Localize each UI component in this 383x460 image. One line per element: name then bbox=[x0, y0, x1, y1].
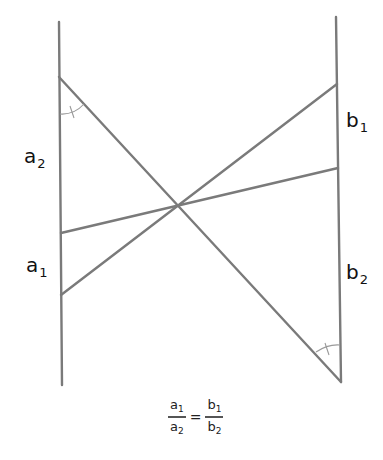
equals-sign: = bbox=[190, 409, 202, 425]
transversal-upper-line bbox=[61, 84, 337, 295]
label-b2-sub: 2 bbox=[360, 272, 368, 287]
label-a2-sub: 2 bbox=[37, 156, 45, 171]
right-fraction: b1 b2 bbox=[205, 398, 223, 436]
label-a2-base: a bbox=[24, 144, 36, 168]
left-den-base: a bbox=[170, 419, 178, 434]
right-numerator: b1 bbox=[205, 398, 223, 414]
right-den-base: b bbox=[207, 419, 215, 434]
right-vertical-line bbox=[336, 17, 341, 382]
right-denominator: b2 bbox=[205, 420, 223, 436]
angle-tick-bottom-right-icon bbox=[325, 343, 329, 355]
left-denominator: a2 bbox=[168, 420, 186, 436]
right-den-sub: 2 bbox=[216, 426, 222, 436]
left-numerator: a1 bbox=[168, 398, 186, 414]
fraction-bar bbox=[205, 416, 223, 417]
label-b1: b1 bbox=[346, 110, 368, 134]
label-b1-base: b bbox=[346, 108, 359, 132]
label-a2: a2 bbox=[24, 146, 46, 170]
fraction-bar bbox=[168, 416, 186, 417]
label-b2: b2 bbox=[346, 262, 368, 286]
label-b1-sub: 1 bbox=[360, 120, 368, 135]
proportion-formula: a1 a2 = b1 b2 bbox=[168, 398, 223, 436]
transversal-main-line bbox=[59, 77, 341, 382]
label-a1: a1 bbox=[26, 255, 48, 279]
label-b2-base: b bbox=[346, 260, 359, 284]
transversal-lower-line bbox=[61, 168, 338, 233]
right-num-sub: 1 bbox=[216, 404, 222, 414]
left-fraction: a1 a2 bbox=[168, 398, 186, 436]
label-a1-sub: 1 bbox=[39, 265, 47, 280]
left-num-sub: 1 bbox=[178, 404, 184, 414]
right-num-base: b bbox=[207, 397, 215, 412]
diagram-canvas bbox=[0, 0, 383, 460]
left-num-base: a bbox=[170, 397, 178, 412]
label-a1-base: a bbox=[26, 253, 38, 277]
left-den-sub: 2 bbox=[178, 426, 184, 436]
